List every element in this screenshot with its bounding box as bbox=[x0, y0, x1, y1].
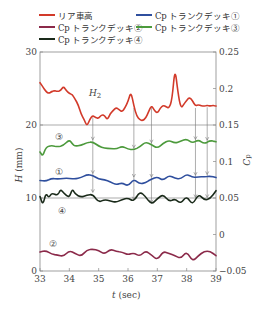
x-tick-label: 37 bbox=[152, 274, 164, 284]
x-tick-label: 34 bbox=[64, 274, 76, 284]
y-tick-label: 30 bbox=[26, 47, 38, 57]
y2-tick-label: 0.1 bbox=[219, 157, 233, 167]
label-circled-1: ① bbox=[55, 167, 63, 177]
y2-tick-label: −0.05 bbox=[219, 266, 247, 276]
y-tick-label: 0 bbox=[31, 266, 37, 276]
x-tick-label: 35 bbox=[93, 274, 105, 284]
x-tick-label: 36 bbox=[122, 274, 134, 284]
series-line-5 bbox=[40, 190, 216, 203]
y2-tick-label: 0.2 bbox=[219, 84, 233, 94]
y2-tick-label: 0.15 bbox=[219, 120, 239, 130]
x-axis-title: t (sec) bbox=[112, 290, 141, 300]
y2-tick-label: 0 bbox=[219, 230, 225, 240]
series-line-1 bbox=[40, 74, 216, 124]
event-arrows bbox=[91, 107, 209, 202]
plot-frame bbox=[40, 52, 216, 271]
label-circled-3: ③ bbox=[55, 132, 63, 142]
y2-tick-label: 0.25 bbox=[219, 47, 239, 57]
data-series bbox=[40, 74, 216, 259]
label-circled-2: ② bbox=[49, 239, 57, 249]
axis-ticks: 333435363738390102030−0.0500.050.10.150.… bbox=[26, 47, 247, 284]
y-tick-label: 20 bbox=[26, 120, 38, 130]
y-axis-title: H (mm) bbox=[14, 148, 24, 184]
series-line-3 bbox=[40, 249, 216, 259]
label-circled-4: ④ bbox=[58, 206, 66, 216]
y2-tick-label: 0.05 bbox=[219, 193, 239, 203]
x-tick-label: 38 bbox=[181, 274, 193, 284]
h2-label: H2 bbox=[88, 88, 101, 100]
y2-axis-title: Cp bbox=[242, 154, 252, 166]
series-line-2 bbox=[40, 175, 216, 185]
series-line-4 bbox=[40, 140, 216, 155]
y-tick-label: 10 bbox=[26, 193, 38, 203]
line-chart: 333435363738390102030−0.0500.050.10.150.… bbox=[0, 0, 264, 309]
